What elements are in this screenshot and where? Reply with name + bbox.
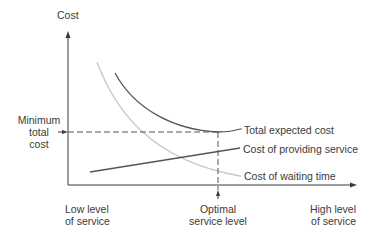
optimal-service-line2: service level	[180, 215, 256, 227]
low-service-line1: Low level	[65, 203, 110, 215]
optimal-service-line1: Optimal	[180, 203, 256, 215]
total-cost-label: Total expected cost	[244, 124, 334, 136]
low-service-line2: of service	[65, 215, 110, 227]
min-cost-label: Minimum total cost	[14, 114, 64, 150]
high-service-label: High level of service	[300, 203, 356, 227]
optimal-service-label: Optimal service level	[180, 203, 256, 227]
x-axis-arrow-icon	[350, 183, 357, 188]
waiting-cost-label: Cost of waiting time	[244, 170, 336, 182]
y-axis-label: Cost	[57, 9, 79, 21]
min-cost-label-line2: total	[14, 126, 64, 138]
min-cost-label-line3: cost	[14, 138, 64, 150]
y-axis-arrow-icon	[66, 31, 71, 38]
high-service-line2: of service	[300, 215, 356, 227]
providing-cost-label: Cost of providing service	[243, 143, 358, 155]
low-service-label: Low level of service	[65, 203, 110, 227]
high-service-line1: High level	[300, 203, 356, 215]
min-cost-label-line1: Minimum	[14, 114, 64, 126]
